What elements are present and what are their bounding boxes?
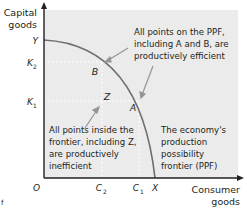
svg-text:All points on the PPF,: All points on the PPF, — [134, 27, 225, 37]
tick-k1-sub: 1 — [33, 102, 37, 109]
x-axis-label-line1: Consumer — [192, 184, 241, 195]
ppf-diagram: Capital goods Consumer goods Y K 2 K 1 O… — [0, 0, 247, 210]
tick-y: Y — [33, 36, 40, 46]
svg-text:production: production — [161, 137, 207, 147]
corner-mark: f — [1, 199, 4, 207]
tick-x: X — [151, 183, 159, 193]
svg-text:The economy's: The economy's — [160, 125, 227, 135]
tick-k2-sub: 2 — [33, 63, 37, 70]
svg-text:frontier, including Z,: frontier, including Z, — [49, 137, 137, 147]
y-axis-arrow-icon — [41, 2, 47, 9]
tick-c2: C — [96, 183, 103, 193]
point-z: Z — [103, 91, 111, 102]
svg-text:inefficient: inefficient — [49, 161, 92, 171]
y-axis-label-line1: Capital — [4, 7, 37, 18]
point-b: B — [92, 66, 99, 77]
tick-c1: C — [133, 183, 140, 193]
y-axis-label-line2: goods — [8, 19, 37, 30]
svg-text:frontier (PPF): frontier (PPF) — [161, 161, 217, 171]
svg-text:productively efficient: productively efficient — [134, 51, 225, 61]
tick-c2-sub: 2 — [103, 188, 107, 195]
tick-c1-sub: 1 — [140, 188, 144, 195]
x-axis-arrow-icon — [237, 175, 244, 181]
x-axis-label-line2: goods — [211, 196, 240, 207]
annotation-efficient: All points on the PPF, including A and B… — [134, 27, 229, 61]
point-a: A — [129, 103, 136, 113]
svg-text:including A and B, are: including A and B, are — [134, 39, 229, 49]
svg-text:All points inside the: All points inside the — [49, 125, 134, 135]
svg-text:possibility: possibility — [161, 149, 204, 159]
origin-label: O — [33, 183, 40, 193]
svg-text:are productively: are productively — [49, 149, 119, 159]
